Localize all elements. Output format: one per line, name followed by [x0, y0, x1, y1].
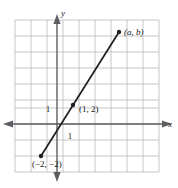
- x-axis-label: x: [167, 119, 172, 129]
- point-label-upper: (a, b): [124, 27, 144, 37]
- point-upper: [117, 30, 121, 34]
- y-axis-label: y: [60, 8, 65, 18]
- figure-background: [0, 0, 178, 188]
- y-unit-tick-label: 1: [46, 104, 51, 114]
- coordinate-graph-figure: y x 1 1 (a, b) (1, 2) (−2, −2): [0, 0, 178, 188]
- point-lower: [39, 154, 43, 158]
- point-label-lower: (−2, −2): [32, 159, 62, 169]
- x-unit-tick-label: 1: [68, 131, 73, 141]
- point-middle: [71, 103, 75, 107]
- point-label-middle: (1, 2): [79, 104, 99, 114]
